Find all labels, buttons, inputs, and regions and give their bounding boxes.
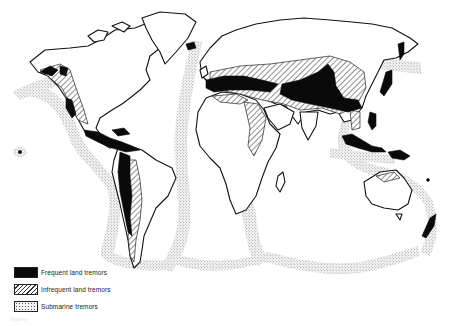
continents bbox=[30, 12, 436, 268]
indochina-infrequent bbox=[350, 110, 360, 130]
hawaii-frequent bbox=[18, 150, 21, 153]
infrequent-swatch-icon bbox=[14, 284, 38, 295]
philippines-frequent bbox=[368, 112, 376, 130]
map-legend: Frequent land tremors Infrequent land tr… bbox=[14, 265, 111, 316]
frequent-swatch-icon bbox=[14, 267, 38, 278]
legend-item-infrequent: Infrequent land tremors bbox=[14, 282, 111, 297]
legend-item-submarine: Submarine tremors bbox=[14, 299, 111, 314]
legend-item-frequent: Frequent land tremors bbox=[14, 265, 111, 280]
kamchatka bbox=[398, 42, 404, 60]
central-america-frequent bbox=[84, 130, 140, 152]
submarine-swatch-icon bbox=[14, 301, 38, 312]
madagascar bbox=[276, 172, 285, 192]
legend-label: Frequent land tremors bbox=[41, 269, 107, 276]
tasmania bbox=[396, 214, 402, 220]
caribbean-frequent bbox=[112, 128, 130, 136]
legend-label: Submarine tremors bbox=[41, 303, 98, 310]
southern-ocean-band bbox=[168, 246, 420, 274]
legend-label: Infrequent land tremors bbox=[41, 286, 111, 293]
fiji-frequent bbox=[427, 179, 430, 182]
japan bbox=[380, 70, 392, 96]
india bbox=[300, 112, 318, 140]
mid-atlantic-ridge bbox=[160, 40, 202, 272]
figure-caption: Figure bbox=[10, 316, 27, 322]
